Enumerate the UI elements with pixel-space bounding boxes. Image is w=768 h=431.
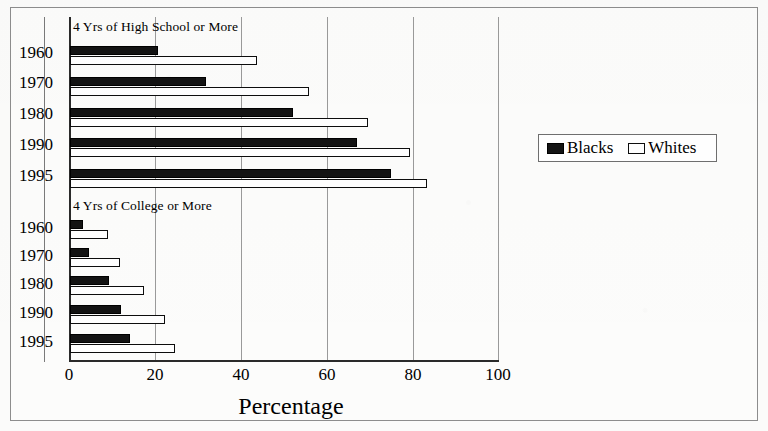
outlined-white-swatch-icon bbox=[628, 143, 645, 154]
gridline-100 bbox=[498, 17, 499, 362]
year-label-col-1960: 1960 bbox=[19, 219, 67, 237]
gridline-20 bbox=[155, 17, 156, 362]
xtick-label-80: 80 bbox=[405, 365, 422, 385]
bar-hs-1990-blacks bbox=[70, 138, 357, 147]
legend-entry-blacks: Blacks bbox=[547, 139, 613, 157]
year-label-col-1970: 1970 bbox=[19, 247, 67, 265]
group-caption-college: 4 Yrs of College or More bbox=[73, 198, 212, 214]
year-label-col-1990: 1990 bbox=[19, 304, 67, 322]
figure-frame: 4 Yrs of High School or More 1960 1970 1… bbox=[10, 7, 758, 421]
bar-hs-1990-whites bbox=[70, 148, 410, 157]
bar-col-1970-whites bbox=[70, 258, 120, 267]
scanned-page: 4 Yrs of High School or More 1960 1970 1… bbox=[0, 0, 768, 431]
bar-col-1995-blacks bbox=[70, 334, 130, 343]
year-label-col-1980: 1980 bbox=[19, 275, 67, 293]
x-axis-title: Percentage bbox=[161, 392, 421, 420]
year-label-hs-1970: 1970 bbox=[19, 74, 67, 92]
legend-label-whites: Whites bbox=[648, 139, 696, 157]
legend-label-blacks: Blacks bbox=[567, 139, 613, 157]
bar-hs-1960-whites bbox=[70, 56, 257, 65]
bar-col-1980-blacks bbox=[70, 276, 109, 285]
year-label-hs-1980: 1980 bbox=[19, 105, 67, 123]
chart-legend: Blacks Whites bbox=[538, 134, 717, 162]
group-caption-high-school: 4 Yrs of High School or More bbox=[73, 19, 238, 35]
xtick-label-0: 0 bbox=[65, 365, 74, 385]
gridline-40 bbox=[241, 17, 242, 362]
legend-entry-whites: Whites bbox=[628, 139, 696, 157]
bar-col-1980-whites bbox=[70, 286, 144, 295]
xtick-label-100: 100 bbox=[485, 365, 511, 385]
gridline-60 bbox=[327, 17, 328, 362]
xtick-label-40: 40 bbox=[233, 365, 250, 385]
filled-black-swatch-icon bbox=[547, 143, 564, 154]
bar-hs-1995-whites bbox=[70, 179, 427, 188]
bar-hs-1995-blacks bbox=[70, 169, 391, 178]
bar-col-1995-whites bbox=[70, 344, 175, 353]
bar-hs-1970-whites bbox=[70, 87, 309, 96]
xtick-label-60: 60 bbox=[319, 365, 336, 385]
year-label-hs-1995: 1995 bbox=[19, 167, 67, 185]
gridline-80 bbox=[413, 17, 414, 362]
bar-col-1990-blacks bbox=[70, 305, 121, 314]
year-label-col-1995: 1995 bbox=[19, 333, 67, 351]
bar-col-1960-whites bbox=[70, 230, 108, 239]
category-axis-line bbox=[69, 360, 499, 362]
bar-col-1970-blacks bbox=[70, 248, 89, 257]
bar-col-1960-blacks bbox=[70, 220, 83, 229]
bar-hs-1980-whites bbox=[70, 118, 368, 127]
bar-hs-1960-blacks bbox=[70, 46, 158, 55]
bar-hs-1980-blacks bbox=[70, 108, 293, 117]
year-label-hs-1990: 1990 bbox=[19, 136, 67, 154]
year-label-hs-1960: 1960 bbox=[19, 44, 67, 62]
xtick-label-20: 20 bbox=[147, 365, 164, 385]
bar-hs-1970-blacks bbox=[70, 77, 206, 86]
bar-col-1990-whites bbox=[70, 315, 165, 324]
